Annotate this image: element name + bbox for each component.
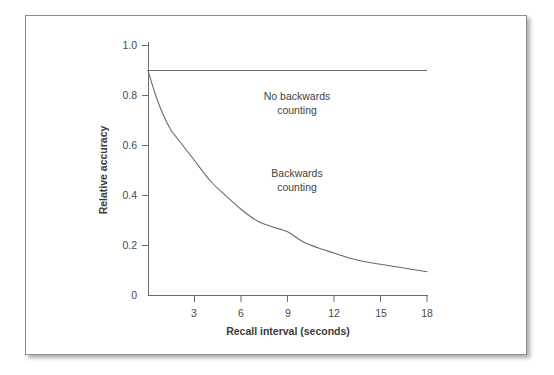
x-tick-label-3: 9 (285, 307, 291, 319)
x-tick-label-5: 15 (375, 307, 387, 319)
y-tick-label-6: 0 (113, 289, 137, 301)
y-tick-label-1: 1.0 (113, 39, 137, 51)
x-tick-label-2: 6 (238, 307, 244, 319)
y-tick-label-5: 0.2 (113, 239, 137, 251)
x-axis-title: Recall interval (seconds) (226, 325, 350, 337)
annotation-backwards-counting: Backwards counting (271, 166, 322, 194)
y-axis-title: Relative accuracy (97, 126, 109, 215)
y-tick-label-3: 0.6 (113, 139, 137, 151)
x-tick-label-1: 3 (191, 307, 197, 319)
figure-root: 1.0 0.8 0.6 0.4 0.2 0 3 6 9 12 15 18 Rec… (0, 0, 554, 375)
annotation-no-backwards-counting: No backwards counting (264, 89, 331, 117)
y-tick-label-2: 0.8 (113, 89, 137, 101)
x-tick-label-6: 18 (421, 307, 433, 319)
y-tick-label-4: 0.4 (113, 189, 137, 201)
x-tick-label-4: 12 (328, 307, 340, 319)
